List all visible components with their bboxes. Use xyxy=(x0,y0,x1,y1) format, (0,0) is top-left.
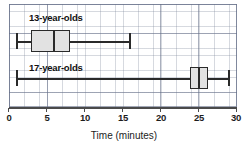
x-axis-label-0: 0 xyxy=(6,112,11,123)
median-line-17-year-olds xyxy=(198,67,200,89)
whisker-cap-max-13-year-olds xyxy=(129,33,131,49)
x-axis-label-5: 5 xyxy=(44,112,49,123)
boxplot-chart-screenshot: 13-year-olds 17-year-olds 0 5 10 15 20 2… xyxy=(0,0,248,152)
x-axis-label-30: 30 xyxy=(231,112,241,123)
median-line-13-year-olds xyxy=(53,30,55,52)
x-axis-label-25: 25 xyxy=(194,112,204,123)
box-13-year-olds xyxy=(31,30,70,52)
whisker-cap-min-17-year-olds xyxy=(16,70,18,86)
x-axis-label-15: 15 xyxy=(118,112,128,123)
boxplot-label-13-year-olds: 13-year-olds xyxy=(29,12,83,23)
x-axis-label-10: 10 xyxy=(80,112,90,123)
x-axis-title: Time (minutes) xyxy=(0,130,248,141)
whisker-cap-max-17-year-olds xyxy=(228,70,230,86)
boxplot-label-17-year-olds: 17-year-olds xyxy=(29,62,83,73)
x-axis-label-20: 20 xyxy=(156,112,166,123)
whisker-cap-min-13-year-olds xyxy=(16,33,18,49)
